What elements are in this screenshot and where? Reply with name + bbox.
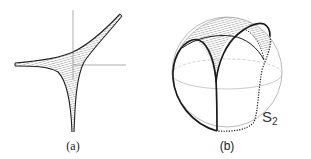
panel-b: S2 (b) xyxy=(172,17,282,153)
equator-front xyxy=(172,74,282,89)
panel-a-label: (a) xyxy=(66,139,79,153)
right-boundary xyxy=(74,16,122,132)
panel-a: (a) xyxy=(15,10,126,153)
left-loop-curve xyxy=(173,40,217,131)
sphere-label: S2 xyxy=(262,108,278,127)
figure-canvas: (a) S2 (b) xyxy=(0,0,311,159)
cusp-region xyxy=(15,14,122,132)
panel-b-label: (b) xyxy=(220,139,235,153)
